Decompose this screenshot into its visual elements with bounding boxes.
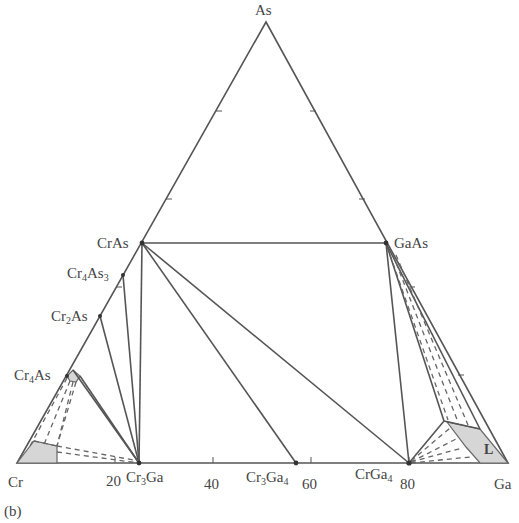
label-cr3ga4-sub2: 4: [284, 476, 289, 487]
label-cr2as: Cr2As: [51, 309, 88, 326]
point-cr3ga4: [294, 461, 299, 466]
label-crga4-base: CrGa: [355, 466, 388, 482]
label-cr3ga-rest: Ga: [146, 469, 164, 485]
ternary-diagram: [0, 0, 519, 523]
point-cr2as: [98, 314, 102, 318]
label-cr3ga4: Cr3Ga4: [246, 470, 289, 487]
point-cr3ga: [137, 461, 142, 466]
label-crga4: CrGa4: [355, 467, 393, 484]
label-cras: CrAs: [97, 236, 129, 251]
vertex-label-cr: Cr: [8, 475, 23, 490]
label-cr4as-base: Cr: [14, 367, 29, 383]
label-cr4as3-rest: As: [87, 265, 104, 281]
tick-label-60: 60: [302, 477, 317, 492]
tick-label-40: 40: [204, 477, 219, 492]
vertex-label-ga: Ga: [494, 477, 512, 492]
label-gaas: GaAs: [394, 236, 428, 251]
label-cr4as3-sub2: 3: [104, 272, 109, 283]
liquid-label: L: [484, 443, 493, 457]
point-cr4as3: [121, 273, 125, 277]
label-cr3ga: Cr3Ga: [126, 470, 164, 487]
point-cras: [140, 241, 145, 246]
vertex-label-as: As: [255, 3, 272, 18]
label-cr4as-rest: As: [34, 367, 51, 383]
label-cr3ga4-base: Cr: [246, 469, 261, 485]
point-cr4as: [65, 374, 69, 378]
label-crga4-sub: 4: [388, 473, 393, 484]
panel-label: (b): [4, 504, 22, 519]
label-cr3ga-base: Cr: [126, 469, 141, 485]
label-cr2as-rest: As: [71, 308, 88, 324]
label-cr4as3-base: Cr: [67, 265, 82, 281]
point-crga4: [406, 460, 411, 465]
tick-label-20: 20: [106, 474, 121, 489]
label-cr4as3: Cr4As3: [67, 266, 109, 283]
point-gaas: [384, 241, 389, 246]
tick-label-80: 80: [400, 477, 415, 492]
label-cr4as: Cr4As: [14, 368, 51, 385]
label-cr3ga4-rest: Ga: [266, 469, 284, 485]
label-cr2as-base: Cr: [51, 308, 66, 324]
